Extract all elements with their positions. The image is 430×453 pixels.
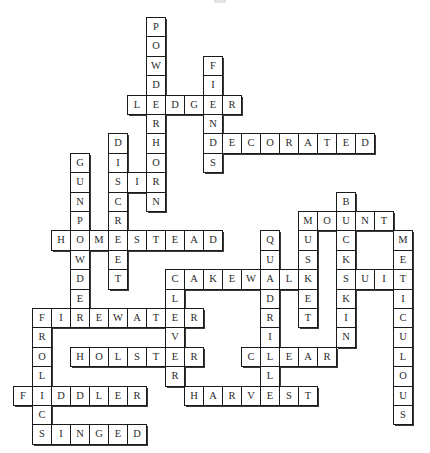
crossword-cell[interactable]: E <box>222 269 242 289</box>
crossword-cell[interactable]: U <box>298 230 318 250</box>
crossword-cell[interactable]: F <box>203 56 223 76</box>
crossword-cell[interactable]: E <box>108 386 128 406</box>
crossword-cell[interactable]: U <box>355 269 375 289</box>
crossword-cell[interactable]: I <box>127 172 147 192</box>
crossword-cell[interactable]: D <box>165 95 185 115</box>
crossword-cell[interactable]: T <box>374 211 394 231</box>
crossword-cell[interactable]: E <box>165 308 185 328</box>
crossword-cell[interactable]: E <box>203 95 223 115</box>
crossword-cell[interactable]: R <box>260 308 280 328</box>
crossword-cell[interactable]: R <box>165 366 185 386</box>
crossword-cell[interactable]: S <box>127 230 147 250</box>
crossword-cell[interactable]: G <box>89 424 109 444</box>
crossword-cell[interactable]: S <box>203 153 223 173</box>
crossword-cell[interactable]: R <box>32 327 52 347</box>
crossword-cell[interactable]: L <box>260 347 280 367</box>
crossword-cell[interactable]: N <box>336 327 356 347</box>
crossword-cell[interactable]: R <box>222 386 242 406</box>
crossword-cell[interactable]: K <box>203 269 223 289</box>
crossword-cell[interactable]: R <box>108 211 128 231</box>
crossword-cell[interactable]: I <box>260 327 280 347</box>
crossword-cell[interactable]: E <box>108 230 128 250</box>
crossword-cell[interactable]: E <box>298 289 318 309</box>
crossword-cell[interactable]: E <box>393 250 413 270</box>
crossword-cell[interactable]: F <box>13 386 33 406</box>
crossword-cell[interactable]: A <box>203 386 223 406</box>
crossword-cell[interactable]: E <box>279 347 299 367</box>
crossword-cell[interactable]: A <box>127 308 147 328</box>
crossword-cell[interactable]: R <box>317 347 337 367</box>
crossword-cell[interactable]: C <box>241 133 261 153</box>
crossword-cell[interactable]: L <box>108 347 128 367</box>
crossword-cell[interactable]: N <box>70 424 90 444</box>
crossword-cell[interactable]: L <box>127 95 147 115</box>
crossword-cell[interactable]: E <box>70 289 90 309</box>
crossword-cell[interactable]: K <box>298 269 318 289</box>
crossword-cell[interactable]: A <box>184 269 204 289</box>
crossword-cell[interactable]: O <box>146 153 166 173</box>
crossword-cell[interactable]: A <box>298 347 318 367</box>
crossword-cell[interactable]: D <box>355 133 375 153</box>
crossword-cell[interactable]: L <box>89 386 109 406</box>
crossword-cell[interactable]: A <box>184 230 204 250</box>
crossword-cell[interactable]: S <box>393 405 413 425</box>
crossword-cell[interactable]: D <box>127 424 147 444</box>
crossword-cell[interactable]: I <box>393 289 413 309</box>
crossword-cell[interactable]: F <box>32 308 52 328</box>
crossword-cell[interactable]: C <box>336 230 356 250</box>
crossword-cell[interactable]: D <box>70 269 90 289</box>
crossword-cell[interactable]: E <box>89 308 109 328</box>
crossword-cell[interactable]: N <box>146 192 166 212</box>
crossword-cell[interactable]: G <box>184 95 204 115</box>
crossword-cell[interactable]: C <box>108 192 128 212</box>
crossword-cell[interactable]: I <box>51 424 71 444</box>
crossword-cell[interactable]: V <box>241 386 261 406</box>
crossword-cell[interactable]: D <box>146 75 166 95</box>
crossword-cell[interactable]: U <box>260 250 280 270</box>
crossword-cell[interactable]: A <box>298 133 318 153</box>
crossword-cell[interactable]: T <box>146 308 166 328</box>
crossword-cell[interactable]: P <box>146 17 166 37</box>
crossword-cell[interactable]: H <box>184 386 204 406</box>
crossword-cell[interactable]: O <box>70 230 90 250</box>
crossword-cell[interactable]: R <box>127 386 147 406</box>
crossword-cell[interactable]: M <box>298 211 318 231</box>
crossword-cell[interactable]: V <box>165 327 185 347</box>
crossword-cell[interactable]: R <box>146 114 166 134</box>
crossword-cell[interactable]: S <box>298 250 318 270</box>
crossword-cell[interactable]: W <box>241 269 261 289</box>
crossword-cell[interactable]: I <box>32 386 52 406</box>
crossword-cell[interactable]: R <box>146 172 166 192</box>
crossword-cell[interactable]: S <box>336 269 356 289</box>
crossword-cell[interactable]: O <box>32 347 52 367</box>
crossword-cell[interactable]: D <box>260 289 280 309</box>
crossword-cell[interactable]: E <box>165 347 185 367</box>
crossword-cell[interactable]: U <box>393 386 413 406</box>
crossword-cell[interactable]: E <box>222 133 242 153</box>
crossword-cell[interactable]: E <box>336 133 356 153</box>
crossword-cell[interactable]: E <box>108 250 128 270</box>
crossword-cell[interactable]: H <box>146 133 166 153</box>
crossword-cell[interactable]: S <box>279 386 299 406</box>
crossword-cell[interactable]: T <box>146 347 166 367</box>
crossword-cell[interactable]: N <box>70 192 90 212</box>
crossword-cell[interactable]: I <box>51 308 71 328</box>
crossword-cell[interactable]: C <box>393 308 413 328</box>
crossword-cell[interactable]: W <box>70 250 90 270</box>
crossword-cell[interactable]: N <box>203 114 223 134</box>
crossword-cell[interactable]: W <box>146 56 166 76</box>
crossword-cell[interactable]: E <box>108 424 128 444</box>
crossword-cell[interactable]: D <box>108 133 128 153</box>
crossword-cell[interactable]: L <box>279 269 299 289</box>
crossword-cell[interactable]: U <box>336 211 356 231</box>
crossword-cell[interactable]: O <box>89 347 109 367</box>
crossword-cell[interactable]: E <box>165 230 185 250</box>
crossword-cell[interactable]: M <box>89 230 109 250</box>
crossword-cell[interactable]: T <box>298 386 318 406</box>
crossword-cell[interactable]: A <box>260 269 280 289</box>
crossword-cell[interactable]: U <box>70 172 90 192</box>
crossword-cell[interactable]: W <box>108 308 128 328</box>
crossword-cell[interactable]: L <box>32 366 52 386</box>
crossword-cell[interactable]: O <box>393 366 413 386</box>
crossword-cell[interactable]: L <box>260 366 280 386</box>
